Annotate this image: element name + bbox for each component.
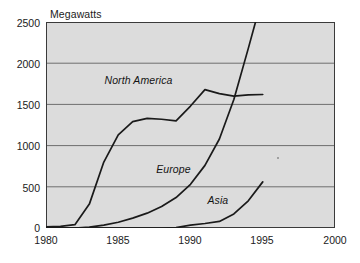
- series-label-north-america: North America: [104, 74, 172, 86]
- plot-area: [0, 0, 360, 263]
- series-label-europe: Europe: [156, 163, 190, 175]
- series-label-asia: Asia: [207, 194, 228, 206]
- chart-figure: Megawatts 2500 2000 1500 1000 500 0 1980…: [0, 0, 360, 263]
